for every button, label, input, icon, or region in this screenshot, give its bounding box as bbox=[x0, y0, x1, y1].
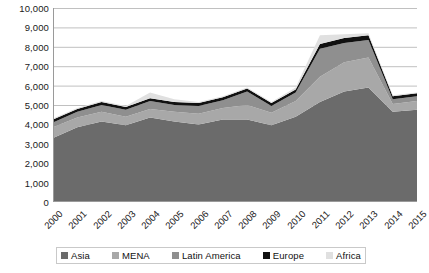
x-axis: 2000200120022003200420052006200720082009… bbox=[53, 204, 417, 244]
x-tick-label: 2005 bbox=[159, 208, 187, 236]
y-tick-label: 1,000 bbox=[25, 177, 49, 188]
x-tick-label: 2014 bbox=[377, 208, 405, 236]
plot-area bbox=[53, 8, 417, 202]
x-tick-label: 2009 bbox=[256, 208, 284, 236]
y-tick-label: 6,000 bbox=[25, 80, 49, 91]
x-tick-label: 2010 bbox=[280, 208, 308, 236]
legend-item-latin-america[interactable]: Latin America bbox=[172, 250, 241, 261]
legend-swatch-icon bbox=[172, 252, 179, 259]
legend-label: Asia bbox=[71, 250, 90, 261]
legend-label: Latin America bbox=[182, 250, 241, 261]
chart-legend: AsiaMENALatin AmericaEuropeAfrica bbox=[56, 247, 366, 264]
y-tick-label: 9,000 bbox=[25, 22, 49, 33]
y-axis: 10,0009,0008,0007,0006,0005,0004,0003,00… bbox=[0, 0, 49, 210]
legend-swatch-icon bbox=[112, 252, 119, 259]
x-tick-label: 2013 bbox=[353, 208, 381, 236]
x-tick-label: 2006 bbox=[183, 208, 211, 236]
x-tick-label: 2001 bbox=[61, 208, 89, 236]
y-tick-label: 4,000 bbox=[25, 119, 49, 130]
x-tick-label: 2007 bbox=[207, 208, 235, 236]
legend-item-europe[interactable]: Europe bbox=[263, 250, 304, 261]
x-tick-label: 2015 bbox=[401, 208, 429, 236]
legend-item-mena[interactable]: MENA bbox=[112, 250, 150, 261]
x-tick-label: 2008 bbox=[231, 208, 259, 236]
legend-label: MENA bbox=[122, 250, 150, 261]
y-tick-label: 0 bbox=[44, 197, 49, 208]
legend-swatch-icon bbox=[263, 252, 270, 259]
legend-swatch-icon bbox=[61, 252, 68, 259]
legend-item-asia[interactable]: Asia bbox=[61, 250, 90, 261]
y-tick-label: 10,000 bbox=[19, 3, 49, 14]
x-tick-label: 2002 bbox=[86, 208, 114, 236]
x-tick-label: 2004 bbox=[134, 208, 162, 236]
x-tick-label: 2012 bbox=[328, 208, 356, 236]
legend-item-africa[interactable]: Africa bbox=[326, 250, 361, 261]
x-tick-label: 2011 bbox=[304, 208, 332, 236]
area-series-group bbox=[53, 33, 417, 202]
y-tick-label: 3,000 bbox=[25, 138, 49, 149]
x-tick-label: 2003 bbox=[110, 208, 138, 236]
legend-swatch-icon bbox=[326, 252, 333, 259]
y-tick-label: 5,000 bbox=[25, 100, 49, 111]
legend-label: Africa bbox=[336, 250, 361, 261]
y-tick-label: 8,000 bbox=[25, 41, 49, 52]
y-tick-label: 7,000 bbox=[25, 61, 49, 72]
x-tick-label: 2000 bbox=[37, 208, 65, 236]
legend-label: Europe bbox=[273, 250, 304, 261]
y-tick-label: 2,000 bbox=[25, 158, 49, 169]
plot-svg bbox=[53, 8, 417, 202]
